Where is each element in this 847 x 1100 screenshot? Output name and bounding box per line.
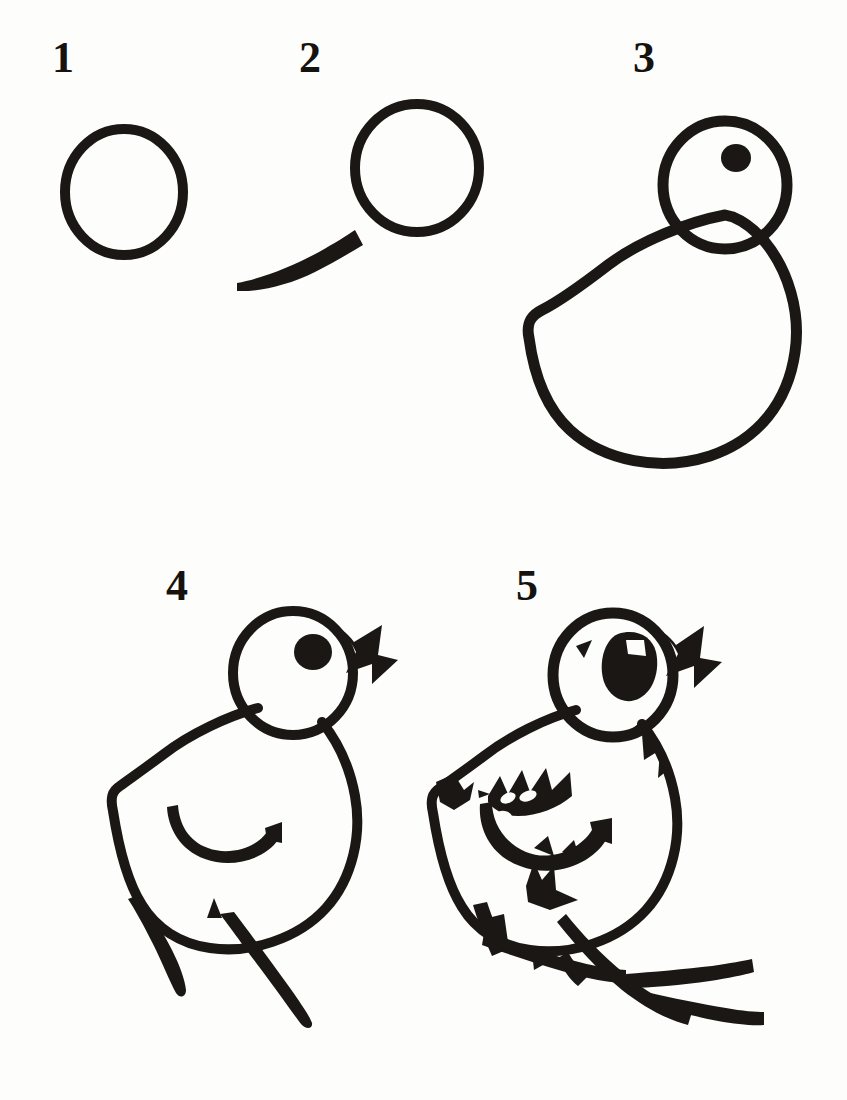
tail-line-step2 [237,230,363,291]
eye-dot-step3 [721,144,751,172]
step-panel-5 [430,600,830,1050]
step-panel-2 [215,0,535,330]
head-circle-step3 [663,121,787,249]
brow-tick-step5 [576,640,592,658]
head-circle-step2 [355,104,479,232]
head-circle-step4 [233,611,353,735]
step-number-3: 3 [633,36,655,80]
wing-curve-step4 [167,805,282,863]
leg-joint-spike-step4 [207,898,222,918]
head-circle-step1 [65,129,183,255]
feet-toes-step5 [473,902,764,1025]
eye-highlight-step5 [626,640,646,656]
body-outline-step3 [528,215,796,463]
step-panel-4 [110,600,440,1030]
step-panel-3 [520,90,847,470]
wing-feathered-step5 [480,768,612,871]
eye-dot-step4 [294,634,332,670]
body-outline-step5 [432,710,678,951]
leg-left-step4 [128,895,186,997]
drawing-sheet: 1 2 3 [0,0,847,1100]
